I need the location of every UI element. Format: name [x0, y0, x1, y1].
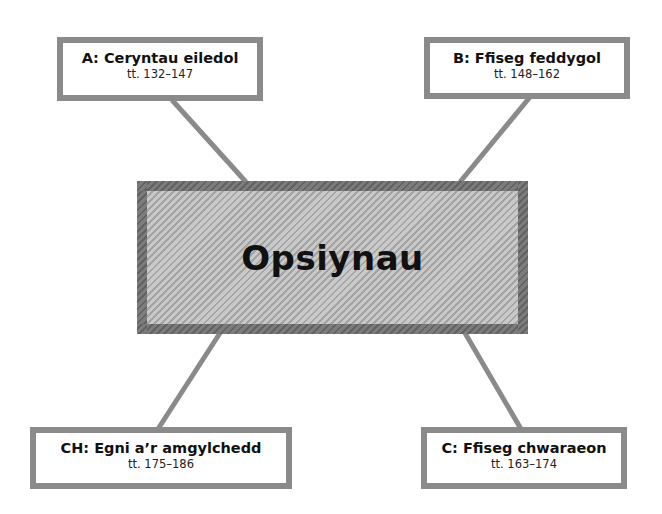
option-pages: tt. 163–174 — [427, 457, 621, 472]
option-box-ch: CH: Egni a’r amgylchedd tt. 175–186 — [30, 427, 292, 489]
option-pages: tt. 132–147 — [63, 67, 257, 82]
center-title: Opsiynau — [241, 238, 424, 278]
connector-ch — [158, 333, 220, 429]
connector-c — [465, 333, 521, 429]
option-title: CH: Egni a’r amgylchedd — [36, 439, 286, 457]
connector-b — [460, 97, 530, 182]
connector-a — [172, 100, 246, 182]
option-box-b: B: Ffiseg feddygol tt. 148–162 — [424, 37, 630, 99]
option-title: C: Ffiseg chwaraeon — [427, 439, 621, 457]
option-box-c: C: Ffiseg chwaraeon tt. 163–174 — [421, 427, 627, 489]
option-title: B: Ffiseg feddygol — [430, 49, 624, 67]
option-box-a: A: Ceryntau eiledol tt. 132–147 — [57, 37, 263, 101]
option-pages: tt. 175–186 — [36, 457, 286, 472]
center-topic-box: Opsiynau — [137, 181, 528, 334]
option-pages: tt. 148–162 — [430, 67, 624, 82]
option-title: A: Ceryntau eiledol — [63, 49, 257, 67]
